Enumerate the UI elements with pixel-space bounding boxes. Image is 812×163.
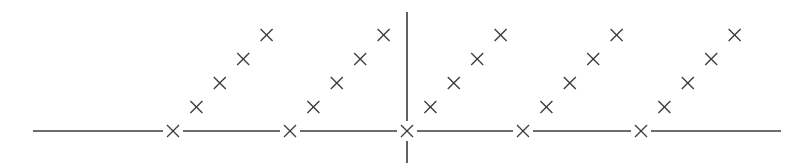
diagonal-cross-icon (540, 101, 552, 113)
diagonal-cross-icon (261, 29, 273, 41)
diagonal-cross-icon (658, 101, 670, 113)
diagonal-cross-icon (705, 53, 717, 65)
diagonal-cross-icon (495, 29, 507, 41)
diagonal-cross-icon (331, 77, 343, 89)
diagonal-cross-icon (682, 77, 694, 89)
diagonal-cross-icon (587, 53, 599, 65)
diagonal-cross-icon (190, 101, 202, 113)
diagonal-cross-icon (354, 53, 366, 65)
diagonal-cross-icon (237, 53, 249, 65)
baseline-cross-icon (635, 125, 647, 137)
baseline-cross-icon (284, 125, 296, 137)
diagonal-cross-icon (448, 77, 460, 89)
baseline-cross-icon (517, 125, 529, 137)
diagonal-cross-icon (307, 101, 319, 113)
diagonal-cross-icon (471, 53, 483, 65)
diagonal-cross-icon (424, 101, 436, 113)
axes (33, 12, 781, 163)
diagonal-cross-icon (611, 29, 623, 41)
diagonal-cross-icon (729, 29, 741, 41)
baseline-cross-icon (167, 125, 179, 137)
lattice-diagram (0, 0, 812, 163)
diagonal-cross-icon (564, 77, 576, 89)
baseline-cross-icon (401, 125, 413, 137)
diagonal-cross-icon (214, 77, 226, 89)
cross-markers (167, 29, 741, 137)
diagonal-cross-icon (378, 29, 390, 41)
diagram-canvas (0, 0, 812, 163)
